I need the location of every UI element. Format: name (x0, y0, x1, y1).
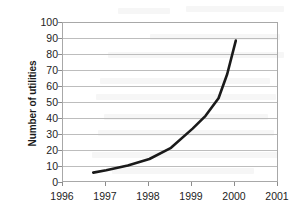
x-tick-mark (234, 182, 235, 186)
x-tick-mark (191, 182, 192, 186)
chart-container: Number of utilities 100 90 80 70 60 50 4… (0, 0, 302, 214)
x-tick-mark (62, 182, 63, 186)
x-tick-label: 1998 (125, 190, 171, 202)
x-tick-label: 2001 (254, 190, 300, 202)
y-tick-label: 10 (18, 161, 58, 171)
y-tick-label: 30 (18, 129, 58, 139)
x-tick-mark (277, 182, 278, 186)
plot-area (62, 22, 278, 182)
y-tick-label: 40 (18, 113, 58, 123)
y-tick-label: 90 (18, 33, 58, 43)
y-tick-label: 100 (18, 17, 58, 27)
y-axis-tick-labels: 100 90 80 70 60 50 40 30 20 10 0 (18, 0, 58, 214)
y-tick-label: 60 (18, 81, 58, 91)
x-tick-mark (148, 182, 149, 186)
y-tick-label: 20 (18, 145, 58, 155)
x-tick-label: 1996 (39, 190, 85, 202)
x-tick-label: 2000 (211, 190, 257, 202)
x-tick-label: 1999 (168, 190, 214, 202)
y-tick-label: 0 (18, 177, 58, 187)
y-tick-label: 70 (18, 65, 58, 75)
y-tick-label: 50 (18, 97, 58, 107)
data-series-line (63, 23, 279, 183)
x-tick-mark (105, 182, 106, 186)
y-tick-label: 80 (18, 49, 58, 59)
x-tick-label: 1997 (82, 190, 128, 202)
